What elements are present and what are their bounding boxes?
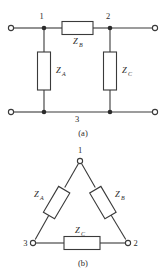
terminal-bottom-left[interactable]	[8, 109, 13, 114]
delta-terminal-node-2[interactable]	[125, 240, 130, 245]
circuit-diagram-svg: 1 2 3 Z B Z A Z C (a)	[0, 0, 166, 278]
label-za: Z A	[56, 65, 66, 77]
delta-label-zc-subscript: C	[81, 231, 86, 237]
delta-label-zc: Z C	[75, 225, 86, 237]
component-zb-delta-box	[90, 186, 116, 218]
label-zb-subscript: B	[79, 42, 83, 48]
delta-label-zb-symbol: Z	[115, 189, 120, 199]
delta-label-za-symbol: Z	[34, 189, 39, 199]
delta-label-zb-subscript: B	[121, 195, 125, 201]
component-za-box	[38, 52, 51, 90]
delta-terminal-node-1[interactable]	[77, 158, 82, 163]
label-zb: Z B	[73, 36, 83, 48]
delta-terminal-node-3[interactable]	[30, 240, 35, 245]
node-dot-3-left	[42, 110, 47, 115]
component-zb-box	[62, 22, 93, 35]
figure-root: 1 2 3 Z B Z A Z C (a)	[0, 0, 166, 278]
caption-panel-b: (b)	[78, 258, 88, 268]
node-label-2: 2	[106, 11, 110, 21]
label-zb-symbol: Z	[73, 36, 78, 46]
delta-label-za: Z A	[34, 189, 44, 201]
delta-label-zc-symbol: Z	[75, 225, 80, 235]
delta-label-za-subscript: A	[39, 195, 44, 201]
node-label-1: 1	[39, 11, 43, 21]
label-zc: Z C	[122, 65, 133, 77]
node-dot-3-right	[108, 110, 113, 115]
delta-node-label-2: 2	[134, 238, 138, 248]
node-dot-2	[108, 26, 113, 31]
label-zc-subscript: C	[128, 71, 133, 77]
terminal-top-right[interactable]	[152, 25, 157, 30]
wire-zb-delta-to-node2	[111, 215, 126, 239]
panel-a-group: 1 2 3 Z B Z A Z C (a)	[8, 11, 157, 138]
terminal-top-left[interactable]	[8, 25, 13, 30]
component-zc-box	[104, 52, 117, 90]
caption-panel-a: (a)	[78, 128, 88, 138]
wire-node1-to-za-delta	[65, 164, 78, 187]
terminal-bottom-right[interactable]	[152, 109, 157, 114]
delta-label-zb: Z B	[115, 189, 125, 201]
component-zc-delta-box	[64, 237, 100, 250]
panel-b-group: 1 3 2 Z A Z B Z C (b)	[23, 145, 138, 268]
label-za-subscript: A	[61, 71, 66, 77]
wire-za-delta-to-node3	[36, 215, 50, 239]
label-za-symbol: Z	[56, 65, 61, 75]
node-dot-1	[42, 26, 47, 31]
component-za-delta-box	[43, 186, 69, 218]
delta-node-label-1: 1	[78, 145, 82, 155]
node-label-3: 3	[75, 114, 79, 124]
wire-node1-to-zb-delta	[82, 164, 95, 187]
label-zc-symbol: Z	[122, 65, 127, 75]
delta-node-label-3: 3	[23, 238, 27, 248]
